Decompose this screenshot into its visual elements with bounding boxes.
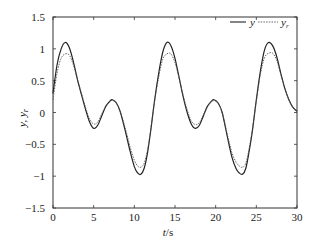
x-tick-label: 20 bbox=[210, 211, 222, 223]
y-tick-label: −0.5 bbox=[25, 138, 45, 150]
y-tick-label: −1.5 bbox=[25, 202, 45, 214]
legend-label-yr: yr bbox=[280, 16, 289, 30]
y-tick-label: 0.5 bbox=[31, 75, 45, 87]
line-chart: 051015202530 −1.5−1−0.500.511.5 t/s y, y… bbox=[0, 0, 310, 242]
x-tick-label: 0 bbox=[50, 211, 56, 223]
x-tick-labels: 051015202530 bbox=[50, 211, 303, 223]
x-tick-label: 15 bbox=[170, 211, 182, 223]
legend-label-y: y bbox=[249, 16, 255, 28]
axis-ticks bbox=[53, 17, 297, 208]
x-axis-label: t/s bbox=[163, 226, 173, 238]
x-tick-label: 5 bbox=[91, 211, 97, 223]
series-group bbox=[53, 42, 297, 174]
legend: y yr bbox=[230, 16, 289, 30]
y-tick-label: 0 bbox=[40, 107, 46, 119]
y-tick-label: −1 bbox=[33, 170, 45, 182]
x-tick-label: 10 bbox=[129, 211, 141, 223]
plot-frame bbox=[53, 17, 297, 208]
y-tick-label: 1 bbox=[40, 43, 46, 55]
y-axis-label: y, yr bbox=[16, 108, 30, 128]
x-tick-label: 25 bbox=[251, 211, 263, 223]
x-tick-label: 30 bbox=[292, 211, 304, 223]
y-tick-label: 1.5 bbox=[31, 11, 45, 23]
